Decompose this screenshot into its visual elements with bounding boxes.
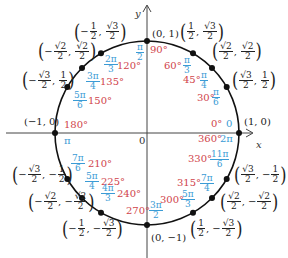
- coord-135: (−√22, √22): [38, 42, 96, 61]
- coord-90: (0, 1): [152, 29, 179, 39]
- coord-300: (12, −√32): [190, 219, 242, 238]
- rad-120: 2π3: [103, 55, 119, 74]
- coord-330: (√32, −12): [234, 165, 286, 184]
- coord-150: (−√32, 12): [22, 71, 74, 90]
- coord-120: (−12, √32): [74, 22, 126, 41]
- deg-135: 135°: [100, 77, 124, 87]
- coord-180: (−1, 0): [24, 117, 59, 127]
- rad-150: 5π6: [72, 91, 88, 110]
- coord-210: (−√32, −12): [12, 165, 73, 184]
- deg-60: 60°: [164, 61, 182, 71]
- origin-label: 0: [139, 136, 145, 146]
- deg-90: 90°: [150, 45, 168, 55]
- coord-0: (1, 0): [244, 117, 271, 127]
- deg-270: 270°: [126, 206, 150, 216]
- rad-225: 5π4: [84, 172, 100, 191]
- rad-240: 4π3: [100, 184, 116, 203]
- deg-360: 360°: [198, 134, 222, 144]
- rad-300: 5π3: [180, 190, 196, 209]
- deg-120: 120°: [117, 61, 141, 71]
- rad-45: π4: [199, 71, 209, 90]
- deg-150: 150°: [88, 96, 112, 106]
- rad-30: π6: [211, 88, 221, 107]
- deg-210: 210°: [88, 159, 112, 169]
- y-axis-label: y: [135, 9, 141, 19]
- deg-240: 240°: [117, 189, 141, 199]
- coord-315: (√22, −√22): [220, 192, 278, 211]
- rad-315: 7π4: [199, 174, 215, 193]
- rad-330: 11π6: [209, 150, 230, 169]
- coord-240: (−12, −√32): [62, 219, 123, 238]
- deg-0: 0°: [211, 119, 222, 129]
- rad-2pi: 2π: [220, 134, 233, 144]
- deg-180: 180°: [64, 120, 88, 130]
- rad-90: π2: [135, 43, 145, 62]
- coord-270: (0, −1): [151, 233, 186, 243]
- coord-45: (√22, √22): [212, 42, 262, 61]
- rad-270: 3π2: [148, 201, 164, 220]
- rad-60: π3: [182, 56, 192, 75]
- rad-135: 3π4: [85, 72, 101, 91]
- coord-30: (√32, 12): [232, 71, 276, 90]
- rad-0: 0: [226, 119, 232, 129]
- coord-225: (−√22, −√22): [28, 192, 95, 211]
- rad-pi: π: [64, 136, 71, 146]
- rad-210: 7π6: [70, 154, 86, 173]
- deg-315: 315°: [177, 178, 201, 188]
- x-axis-label: x: [256, 140, 262, 150]
